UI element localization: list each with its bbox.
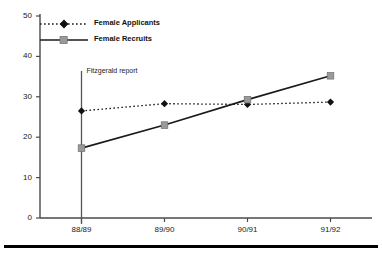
data-point-marker (244, 96, 251, 103)
y-tick-label: 10 (10, 173, 32, 182)
fitzgerald-report-label: Fitzgerald report (87, 67, 138, 74)
data-point-marker (161, 100, 168, 107)
data-point-marker (78, 107, 85, 114)
y-tick-label: 40 (10, 51, 32, 60)
y-tick-label: 0 (10, 213, 32, 222)
series-line (82, 76, 331, 148)
legend-swatch-dotted-diamond (38, 17, 90, 31)
chart-legend: Female Applicants Female Recruits (38, 17, 208, 49)
data-point-marker (327, 98, 334, 105)
x-tick-label: 90/91 (224, 225, 272, 234)
y-tick-label: 30 (10, 92, 32, 101)
series-line (82, 102, 331, 111)
chart-figure: 01020304050 88/8989/9090/9191/92 Fitzger… (0, 0, 382, 259)
y-tick-label: 50 (10, 11, 32, 20)
footer-divider (4, 245, 378, 248)
legend-item-female-applicants: Female Applicants (38, 17, 208, 33)
plot-area: 01020304050 88/8989/9090/9191/92 Fitzger… (0, 0, 382, 240)
x-tick-label: 89/90 (141, 225, 189, 234)
legend-label-female-applicants: Female Applicants (94, 18, 160, 27)
data-point-marker (327, 72, 334, 79)
data-point-marker (78, 145, 85, 152)
legend-label-female-recruits: Female Recruits (94, 34, 152, 43)
footer-clipped-text (6, 250, 126, 259)
legend-item-female-recruits: Female Recruits (38, 33, 208, 49)
y-tick-label: 20 (10, 132, 32, 141)
legend-swatch-solid-square (38, 33, 90, 47)
x-tick-label: 91/92 (307, 225, 355, 234)
series-layer (78, 72, 334, 151)
series-2 (78, 72, 334, 151)
data-point-marker (161, 122, 168, 129)
x-tick-label: 88/89 (58, 225, 106, 234)
